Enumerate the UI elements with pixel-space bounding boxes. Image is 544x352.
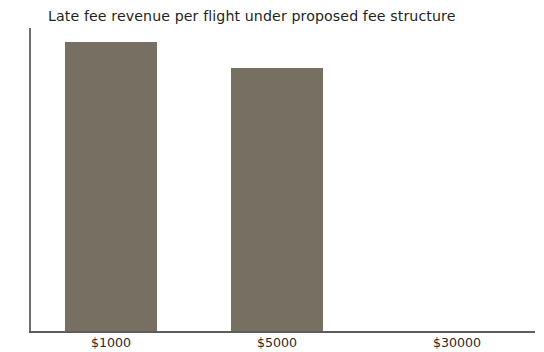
bar-chart: Late fee revenue per flight under propos… [0,0,544,352]
x-tick-label-1: $5000 [257,336,297,350]
x-axis-line [29,331,535,333]
x-tick-label-0: $1000 [91,336,131,350]
x-tick-label-2: $30000 [433,336,481,350]
bar-1[interactable] [231,68,323,331]
bar-0[interactable] [65,42,157,331]
plot-area [29,28,535,333]
chart-title: Late fee revenue per flight under propos… [48,7,518,25]
y-axis-line [29,28,31,333]
